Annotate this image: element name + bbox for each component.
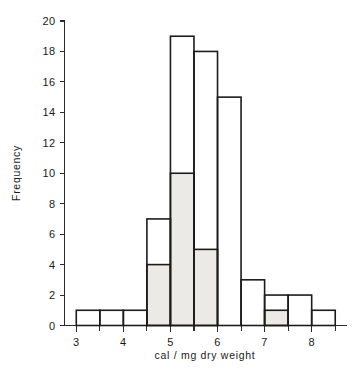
x-tick-label: 7 bbox=[261, 336, 268, 348]
y-tick-label: 12 bbox=[42, 137, 55, 149]
y-tick-label: 8 bbox=[49, 198, 56, 210]
y-tick-label: 14 bbox=[42, 106, 55, 118]
histogram-svg: 02468101214161820 345678 cal / mg dry we… bbox=[0, 0, 359, 373]
histogram-figure: 02468101214161820 345678 cal / mg dry we… bbox=[0, 0, 359, 373]
histogram-bar bbox=[100, 310, 124, 325]
histogram-bar bbox=[312, 310, 336, 325]
y-tick-label: 0 bbox=[49, 320, 56, 332]
x-tick-label: 6 bbox=[214, 336, 221, 348]
y-tick-label: 4 bbox=[49, 259, 56, 271]
y-axis-tick-labels: 02468101214161820 bbox=[42, 15, 55, 332]
histogram-bar bbox=[76, 310, 100, 325]
x-tick-label: 3 bbox=[73, 336, 80, 348]
histogram-bar bbox=[123, 310, 147, 325]
y-tick-label: 2 bbox=[49, 289, 56, 301]
x-tick-label: 8 bbox=[308, 336, 315, 348]
y-tick-label: 18 bbox=[42, 45, 55, 57]
y-axis-title: Frequency bbox=[10, 145, 22, 201]
x-tick-label: 5 bbox=[167, 336, 174, 348]
y-axis-ticks bbox=[60, 21, 65, 326]
y-tick-label: 6 bbox=[49, 228, 56, 240]
x-tick-label: 4 bbox=[120, 336, 127, 348]
y-tick-label: 20 bbox=[42, 15, 55, 27]
y-tick-label: 10 bbox=[42, 167, 55, 179]
histogram-bar-shaded bbox=[265, 310, 289, 325]
histogram-bar bbox=[288, 295, 312, 325]
x-axis-title: cal / mg dry weight bbox=[155, 349, 256, 361]
x-axis-ticks bbox=[76, 326, 335, 332]
histogram-bar bbox=[218, 97, 242, 325]
y-tick-label: 16 bbox=[42, 76, 55, 88]
histogram-bar-shaded bbox=[147, 265, 171, 326]
histogram-bar-shaded bbox=[170, 173, 194, 325]
histogram-bar bbox=[241, 280, 265, 326]
x-axis-tick-labels: 345678 bbox=[73, 336, 315, 348]
histogram-bar-shaded bbox=[194, 249, 218, 325]
